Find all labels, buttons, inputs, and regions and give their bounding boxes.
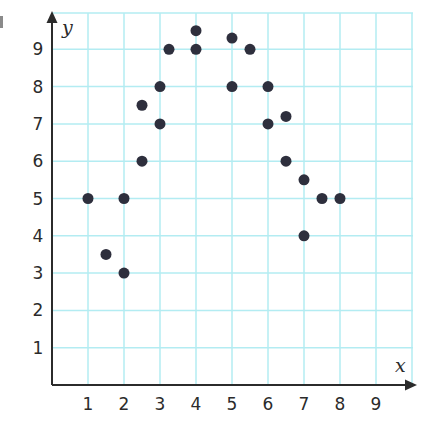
- y-axis-label: y: [61, 16, 73, 38]
- data-point: [155, 118, 166, 129]
- y-tick-label: 1: [33, 338, 44, 358]
- x-tick-label: 1: [83, 394, 94, 414]
- data-point: [191, 44, 202, 55]
- data-point: [335, 193, 346, 204]
- x-tick-label: 5: [227, 394, 238, 414]
- y-tick-label: 6: [33, 151, 44, 171]
- data-point: [137, 156, 148, 167]
- y-tick-label: 4: [33, 226, 44, 246]
- data-point: [155, 81, 166, 92]
- data-point: [191, 25, 202, 36]
- y-tick-label: 5: [33, 189, 44, 209]
- x-tick-label: 8: [335, 394, 346, 414]
- x-tick-label: 6: [263, 394, 274, 414]
- y-tick-label: 3: [33, 263, 44, 283]
- data-point: [119, 268, 130, 279]
- data-point: [299, 230, 310, 241]
- data-point: [119, 193, 130, 204]
- x-tick-label: 4: [191, 394, 202, 414]
- x-axis-label: x: [395, 354, 406, 376]
- data-point: [263, 118, 274, 129]
- data-point: [101, 249, 112, 260]
- data-point: [299, 174, 310, 185]
- data-point: [245, 44, 256, 55]
- x-tick-label: 7: [299, 394, 310, 414]
- x-tick-label: 2: [119, 394, 130, 414]
- x-tick-label: 9: [371, 394, 382, 414]
- data-point: [281, 156, 292, 167]
- data-point: [164, 44, 175, 55]
- data-point: [137, 100, 148, 111]
- x-tick-labels: 123456789: [83, 394, 382, 414]
- data-point: [83, 193, 94, 204]
- y-tick-label: 8: [33, 77, 44, 97]
- data-point: [281, 111, 292, 122]
- data-point: [263, 81, 274, 92]
- scatter-plot: 123456789 123456789 x y: [0, 0, 421, 423]
- x-axis-arrow-icon: [405, 380, 417, 391]
- data-points: [83, 25, 346, 278]
- x-tick-label: 3: [155, 394, 166, 414]
- y-tick-label: 9: [33, 39, 44, 59]
- y-tick-label: 2: [33, 300, 44, 320]
- data-point: [317, 193, 328, 204]
- y-tick-labels: 123456789: [33, 39, 44, 357]
- grid-lines: [52, 13, 413, 385]
- data-point: [227, 81, 238, 92]
- data-point: [227, 33, 238, 44]
- y-tick-label: 7: [33, 114, 44, 134]
